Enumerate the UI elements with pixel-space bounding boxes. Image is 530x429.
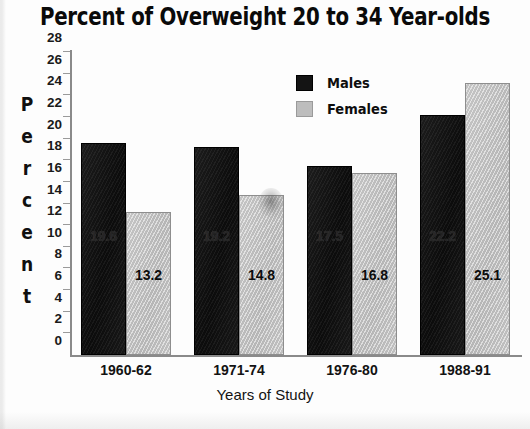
y-axis-tickmark-4	[63, 311, 70, 312]
legend-label: Males	[327, 75, 370, 91]
bar-males-1960-62: 19.6	[81, 143, 126, 355]
y-axis-tickmark-28	[63, 51, 70, 52]
bar-females-1976-80: 16.8	[352, 173, 397, 355]
bar-value-label: 16.8	[353, 267, 396, 283]
bar-value-label: 22.2	[421, 228, 464, 244]
bar-value-label: 19.6	[82, 228, 125, 244]
y-axis-tickmark-8	[63, 267, 70, 268]
y-axis-tick-4: 4	[54, 289, 62, 304]
y-axis-tick-2: 2	[54, 311, 62, 326]
legend-item-males: Males	[296, 70, 388, 96]
scan-smudge-artifact	[258, 188, 284, 218]
bar-males-1976-80: 17.5	[307, 166, 352, 355]
x-axis-tick-1960-62: 1960-62	[66, 362, 186, 378]
bar-males-1988-91: 22.2	[420, 115, 465, 355]
y-axis-label-char-4: e	[16, 216, 38, 248]
chart-title: Percent of Overweight 20 to 34 Year-olds	[32, 2, 498, 31]
y-axis-tick-22: 22	[47, 94, 62, 109]
legend-swatch-female	[296, 101, 313, 117]
x-axis-label: Years of Study	[0, 386, 530, 403]
y-axis-tick-18: 18	[47, 138, 62, 153]
x-axis-tick-1971-74: 1971-74	[179, 362, 299, 378]
y-axis-tickmark-12	[63, 224, 70, 225]
y-axis-tick-26: 26	[47, 51, 62, 66]
y-axis-tickmark-26	[63, 73, 70, 74]
legend-item-females: Females	[296, 96, 388, 122]
y-axis-tickmark-22	[63, 116, 70, 117]
y-axis-tick-0: 0	[54, 333, 62, 348]
bar-males-1971-74: 19.2	[194, 147, 239, 355]
y-axis-tickmark-10	[63, 246, 70, 247]
y-axis-label-char-5: n	[16, 248, 38, 280]
y-axis-tickmark-24	[63, 94, 70, 95]
y-axis-tick-24: 24	[47, 73, 62, 88]
y-axis-tickmark-6	[63, 289, 70, 290]
y-axis-tick-8: 8	[54, 246, 62, 261]
x-axis-tick-1976-80: 1976-80	[292, 362, 412, 378]
y-axis-label-char-1: e	[16, 120, 38, 152]
y-axis-tick-6: 6	[54, 268, 62, 283]
y-axis-label-char-2: r	[16, 152, 38, 184]
y-axis-tickmark-20	[63, 138, 70, 139]
bar-value-label: 14.8	[240, 267, 283, 283]
y-axis-tick-10: 10	[47, 224, 62, 239]
legend-label: Females	[327, 101, 388, 117]
y-axis-tickmark-18	[63, 159, 70, 160]
x-axis-line	[70, 355, 522, 357]
y-axis-tickmark-14	[63, 203, 70, 204]
chart-legend: MalesFemales	[296, 70, 388, 122]
chart-page: Percent of Overweight 20 to 34 Year-olds…	[0, 0, 530, 429]
y-axis-tick-14: 14	[47, 181, 62, 196]
y-axis-tick-12: 12	[47, 203, 62, 218]
x-axis-tick-1988-91: 1988-91	[405, 362, 525, 378]
y-axis-tickmark-2	[63, 332, 70, 333]
bar-females-1988-91: 25.1	[465, 83, 510, 355]
bar-females-1971-74: 14.8	[239, 195, 284, 355]
y-axis-label-char-6: t	[16, 280, 38, 312]
y-axis-tick-16: 16	[47, 159, 62, 174]
bar-value-label: 17.5	[308, 228, 351, 244]
y-axis-tickmark-16	[63, 181, 70, 182]
bar-value-label: 13.2	[127, 267, 170, 283]
bar-females-1960-62: 13.2	[126, 212, 171, 355]
bar-value-label: 25.1	[466, 267, 509, 283]
y-axis-label: Percent	[16, 88, 38, 312]
bar-value-label: 19.2	[195, 228, 238, 244]
y-axis-label-char-3: c	[16, 184, 38, 216]
y-axis-tick-20: 20	[47, 116, 62, 131]
y-axis-label-char-0: P	[16, 88, 38, 120]
y-axis-tick-28: 28	[47, 30, 62, 45]
legend-swatch-male	[296, 75, 313, 91]
